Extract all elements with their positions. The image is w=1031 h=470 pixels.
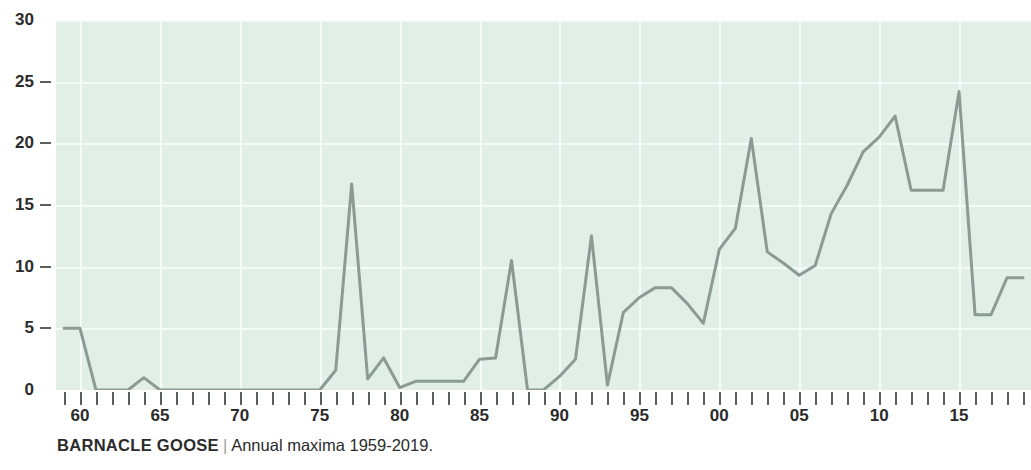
y-axis-tick-mark [40, 204, 51, 206]
x-axis-tick-label: 70 [230, 406, 249, 426]
caption: BARNACLE GOOSE|Annual maxima 1959-2019. [57, 434, 433, 456]
x-axis-tick-mark [783, 392, 785, 405]
x-axis-tick-mark [352, 392, 354, 405]
x-axis-tick-mark [144, 392, 146, 405]
x-axis-tick-mark [575, 392, 577, 405]
x-axis-tick-mark [512, 392, 514, 405]
x-axis-tick-mark [639, 392, 641, 405]
x-axis-tick-mark [847, 392, 849, 405]
x-axis-tick-mark [128, 392, 130, 405]
x-axis-tick-label: 95 [630, 406, 649, 426]
x-axis-labels: 606570758085909500051015 [0, 406, 1031, 430]
x-axis-tick-label: 60 [71, 406, 90, 426]
plot-area [56, 20, 1031, 390]
x-axis-tick-label: 75 [310, 406, 329, 426]
x-axis-tick-mark [863, 392, 865, 405]
x-axis-tick-mark [544, 392, 546, 405]
x-axis-tick-mark [591, 392, 593, 405]
caption-description: Annual maxima 1959-2019. [231, 436, 433, 454]
y-axis-tick-label: 20 [0, 133, 34, 153]
x-axis-tick-mark [304, 392, 306, 405]
x-axis-tick-mark [448, 392, 450, 405]
x-axis-tick-mark [208, 392, 210, 405]
x-axis-tick-mark [655, 392, 657, 405]
x-axis-tick-mark [719, 392, 721, 405]
caption-separator: | [219, 436, 231, 454]
x-axis-tick-label: 90 [550, 406, 569, 426]
x-axis-tick-mark [687, 392, 689, 405]
x-axis-tick-label: 80 [390, 406, 409, 426]
x-axis-tick-mark [623, 392, 625, 405]
x-axis-tick-mark [496, 392, 498, 405]
x-axis-tick-mark [751, 392, 753, 405]
x-axis-tick-mark [831, 392, 833, 405]
x-axis-tick-mark [959, 392, 961, 405]
x-axis-tick-mark [336, 392, 338, 405]
x-axis-tick-mark [256, 392, 258, 405]
x-axis-tick-mark [176, 392, 178, 405]
x-axis-tick-mark [384, 392, 386, 405]
series-polyline [64, 92, 1023, 390]
x-axis-tick-mark [559, 392, 561, 405]
x-axis-tick-label: 00 [710, 406, 729, 426]
x-axis-tick-mark [767, 392, 769, 405]
x-axis-tick-mark [1007, 392, 1009, 405]
x-axis-tick-mark [224, 392, 226, 405]
x-axis-tick-mark [607, 392, 609, 405]
x-axis-tick-mark [192, 392, 194, 405]
x-axis-tick-mark [368, 392, 370, 405]
x-axis-tick-mark [911, 392, 913, 405]
x-axis-tick-mark [480, 392, 482, 405]
x-axis-tick-mark [432, 392, 434, 405]
x-axis-tick-mark [1023, 392, 1025, 405]
x-axis-tick-label: 05 [790, 406, 809, 426]
x-axis-tick-mark [240, 392, 242, 405]
x-axis-tick-label: 15 [950, 406, 969, 426]
y-axis-tick-label: 0 [0, 380, 34, 400]
x-axis-tick-mark [528, 392, 530, 405]
x-axis-tick-label: 85 [470, 406, 489, 426]
x-axis-tick-mark [272, 392, 274, 405]
chart-figure: 051015202530 606570758085909500051015 BA… [0, 0, 1031, 470]
y-axis-tick-mark [40, 327, 51, 329]
y-axis-tick-mark [40, 81, 51, 83]
x-axis-tick-mark [160, 392, 162, 405]
x-axis-tick-mark [288, 392, 290, 405]
x-axis-tick-mark [64, 392, 66, 405]
x-axis-tick-mark [927, 392, 929, 405]
caption-species: BARNACLE GOOSE [57, 436, 219, 454]
x-axis-tick-mark [735, 392, 737, 405]
x-axis-tick-mark [943, 392, 945, 405]
x-axis-tick-label: 10 [870, 406, 889, 426]
x-axis-tick-mark [112, 392, 114, 405]
x-axis-tick-mark [815, 392, 817, 405]
x-axis-tick-mark [80, 392, 82, 405]
x-axis-tick-mark [320, 392, 322, 405]
y-axis-tick-label: 15 [0, 195, 34, 215]
y-axis-tick-label: 10 [0, 257, 34, 277]
x-axis-tick-mark [975, 392, 977, 405]
y-axis-tick-mark [40, 266, 51, 268]
y-axis-tick-mark [40, 142, 51, 144]
series-line-chart [56, 20, 1031, 390]
x-axis-ticks [56, 392, 1031, 406]
y-axis-tick-label: 25 [0, 72, 34, 92]
x-axis-tick-mark [464, 392, 466, 405]
x-axis-tick-mark [416, 392, 418, 405]
x-axis-tick-mark [400, 392, 402, 405]
y-axis-tick-label: 5 [0, 318, 34, 338]
x-axis-tick-mark [991, 392, 993, 405]
x-axis-tick-mark [671, 392, 673, 405]
x-axis-tick-label: 65 [150, 406, 169, 426]
x-axis-tick-mark [879, 392, 881, 405]
x-axis-tick-mark [799, 392, 801, 405]
y-axis-tick-label: 30 [0, 10, 34, 30]
x-axis-tick-mark [96, 392, 98, 405]
x-axis-tick-mark [703, 392, 705, 405]
x-axis-tick-mark [895, 392, 897, 405]
